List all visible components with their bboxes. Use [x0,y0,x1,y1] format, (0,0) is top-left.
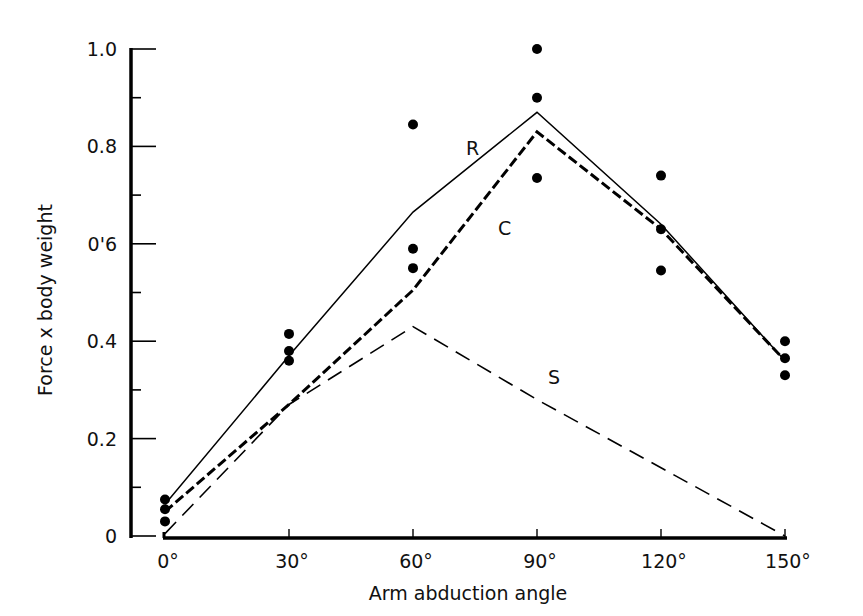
series-label-c: C [498,217,511,239]
series-line-r [165,112,785,504]
data-point [656,224,666,234]
x-tick-label: 150° [765,550,811,572]
series-label-r: R [466,137,479,159]
y-tick-label: 0 [105,525,117,547]
data-point [656,171,666,181]
y-tick-label: 0'6 [88,233,117,255]
data-point [160,504,170,514]
x-tick-label: 0° [157,550,179,572]
data-point [160,494,170,504]
data-point [532,44,542,54]
data-point [408,263,418,273]
data-point [780,336,790,346]
series-lines [165,112,785,536]
x-axis-title: Arm abduction angle [369,582,567,604]
x-tick-label: 30° [275,550,309,572]
x-tick-label: 90° [523,550,557,572]
data-point [780,370,790,380]
series-line-s [165,327,785,536]
line-chart: 00.20.40'60.81.00°30°60°90°120°150° R C … [0,0,863,616]
y-tick-label: 1.0 [87,38,117,60]
data-point [160,516,170,526]
data-point [532,93,542,103]
data-point [284,329,294,339]
x-tick-label: 60° [399,550,433,572]
series-line-c [165,132,785,512]
data-points [160,44,790,526]
y-tick-label: 0.4 [87,330,117,352]
data-point [780,353,790,363]
data-point [656,266,666,276]
data-point [532,173,542,183]
data-point [408,244,418,254]
x-tick-label: 120° [641,550,687,572]
y-tick-label: 0.8 [87,135,117,157]
data-point [408,119,418,129]
series-label-s: S [548,366,560,388]
data-point [284,356,294,366]
y-axis-title: Force x body weight [34,204,56,396]
data-point [284,346,294,356]
axes: 00.20.40'60.81.00°30°60°90°120°150° [87,38,811,572]
y-tick-label: 0.2 [87,428,117,450]
